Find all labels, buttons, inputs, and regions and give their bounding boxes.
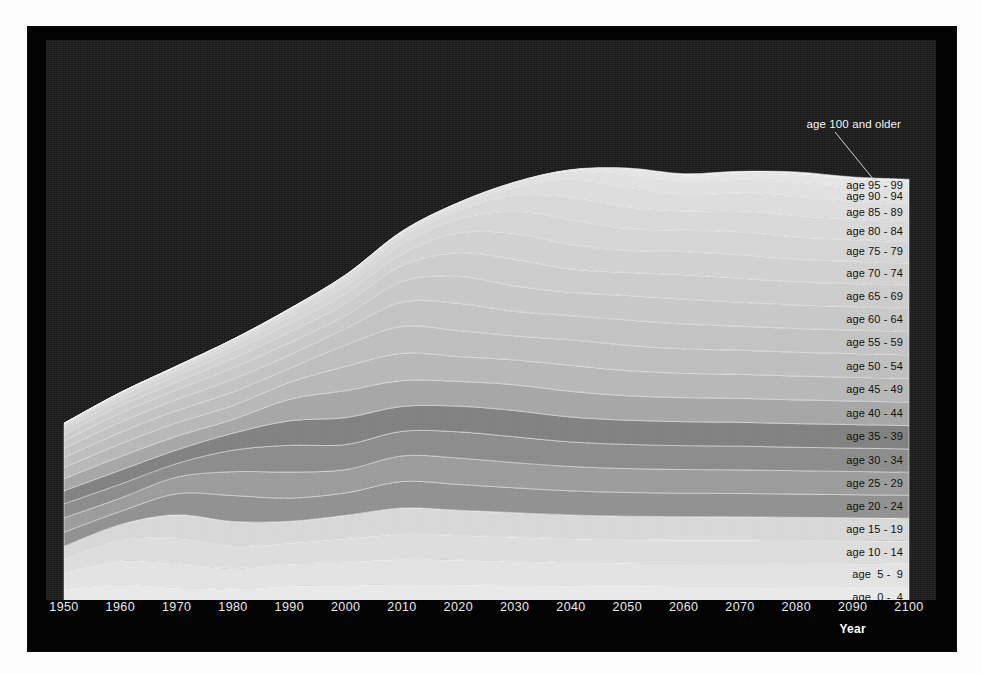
series-label-age-40---44: age 40 - 44 — [846, 407, 903, 419]
x-axis-tick-1960: 1960 — [106, 600, 135, 614]
series-label-age-15---19: age 15 - 19 — [846, 523, 903, 535]
annotation-leader-line — [46, 40, 936, 600]
x-axis-tick-1980: 1980 — [218, 600, 247, 614]
series-label-age-45---49: age 45 - 49 — [846, 383, 903, 395]
screenshot-root: age 100 and older age 95 - 99age 90 - 94… — [0, 0, 981, 674]
series-label-age-30---34: age 30 - 34 — [846, 454, 903, 466]
series-label-age-60---64: age 60 - 64 — [846, 313, 903, 325]
x-axis-tick-2070: 2070 — [725, 600, 754, 614]
series-label-age-35---39: age 35 - 39 — [846, 430, 903, 442]
series-label-age-80---84: age 80 - 84 — [846, 225, 903, 237]
series-label-age-50---54: age 50 - 54 — [846, 360, 903, 372]
series-label-age-85---89: age 85 - 89 — [846, 206, 903, 218]
series-label-age-55---59: age 55 - 59 — [846, 336, 903, 348]
series-label-age-0---4: age 0 - 4 — [852, 591, 903, 600]
x-axis-tick-2010: 2010 — [387, 600, 416, 614]
x-axis-title: Year — [839, 622, 866, 636]
series-label-age-5---9: age 5 - 9 — [852, 568, 903, 580]
x-axis-tick-2050: 2050 — [613, 600, 642, 614]
x-axis-tick-2040: 2040 — [556, 600, 585, 614]
x-axis-tick-1990: 1990 — [275, 600, 304, 614]
x-axis-tick-1950: 1950 — [49, 600, 78, 614]
series-label-age-65---69: age 65 - 69 — [846, 290, 903, 302]
x-axis-tick-2090: 2090 — [838, 600, 867, 614]
x-axis-tick-1970: 1970 — [162, 600, 191, 614]
x-axis-tick-2080: 2080 — [782, 600, 811, 614]
annotation-leader-line-segment — [835, 132, 875, 181]
x-axis-tick-2020: 2020 — [444, 600, 473, 614]
series-label-age-20---24: age 20 - 24 — [846, 500, 903, 512]
x-axis-tick-2100: 2100 — [894, 600, 923, 614]
chart-frame: age 100 and older age 95 - 99age 90 - 94… — [28, 27, 956, 651]
x-axis: 1950196019701980199020002010202020302040… — [46, 600, 936, 646]
x-axis-tick-2030: 2030 — [500, 600, 529, 614]
x-axis-tick-2060: 2060 — [669, 600, 698, 614]
series-label-age-70---74: age 70 - 74 — [846, 267, 903, 279]
streamgraph-plot-area[interactable]: age 100 and older age 95 - 99age 90 - 94… — [46, 40, 936, 600]
series-label-age-25---29: age 25 - 29 — [846, 477, 903, 489]
x-axis-tick-2000: 2000 — [331, 600, 360, 614]
series-label-age-75---79: age 75 - 79 — [846, 245, 903, 257]
annotation-age-100-and-older: age 100 and older — [807, 118, 901, 130]
series-label-age-10---14: age 10 - 14 — [846, 546, 903, 558]
series-label-age-90---94: age 90 - 94 — [846, 190, 903, 202]
